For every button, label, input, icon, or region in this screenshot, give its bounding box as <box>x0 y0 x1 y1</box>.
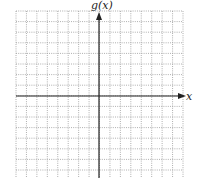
y-axis-label: g(x) <box>91 0 113 11</box>
x-axis-label: x <box>186 91 192 102</box>
y-axis-arrow-icon <box>96 12 102 20</box>
x-axis-arrow-icon <box>178 93 186 99</box>
coordinate-grid <box>0 0 203 178</box>
axes <box>16 12 186 178</box>
